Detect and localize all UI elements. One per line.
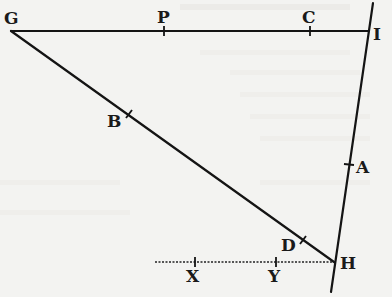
label-b: B <box>107 111 121 131</box>
label-x: X <box>186 266 200 286</box>
label-d: D <box>281 235 296 255</box>
tick-a <box>344 164 354 165</box>
label-h: H <box>340 253 356 273</box>
label-g: G <box>4 8 19 28</box>
geometry-diagram: G P C I A B D H X Y <box>0 0 392 297</box>
label-y: Y <box>267 266 281 286</box>
label-c: C <box>302 7 316 27</box>
page-texture <box>0 4 370 215</box>
label-a: A <box>355 157 370 177</box>
label-p: P <box>157 7 170 27</box>
label-i: I <box>373 24 381 44</box>
segment-ih <box>331 3 373 292</box>
segment-gh <box>11 31 334 262</box>
